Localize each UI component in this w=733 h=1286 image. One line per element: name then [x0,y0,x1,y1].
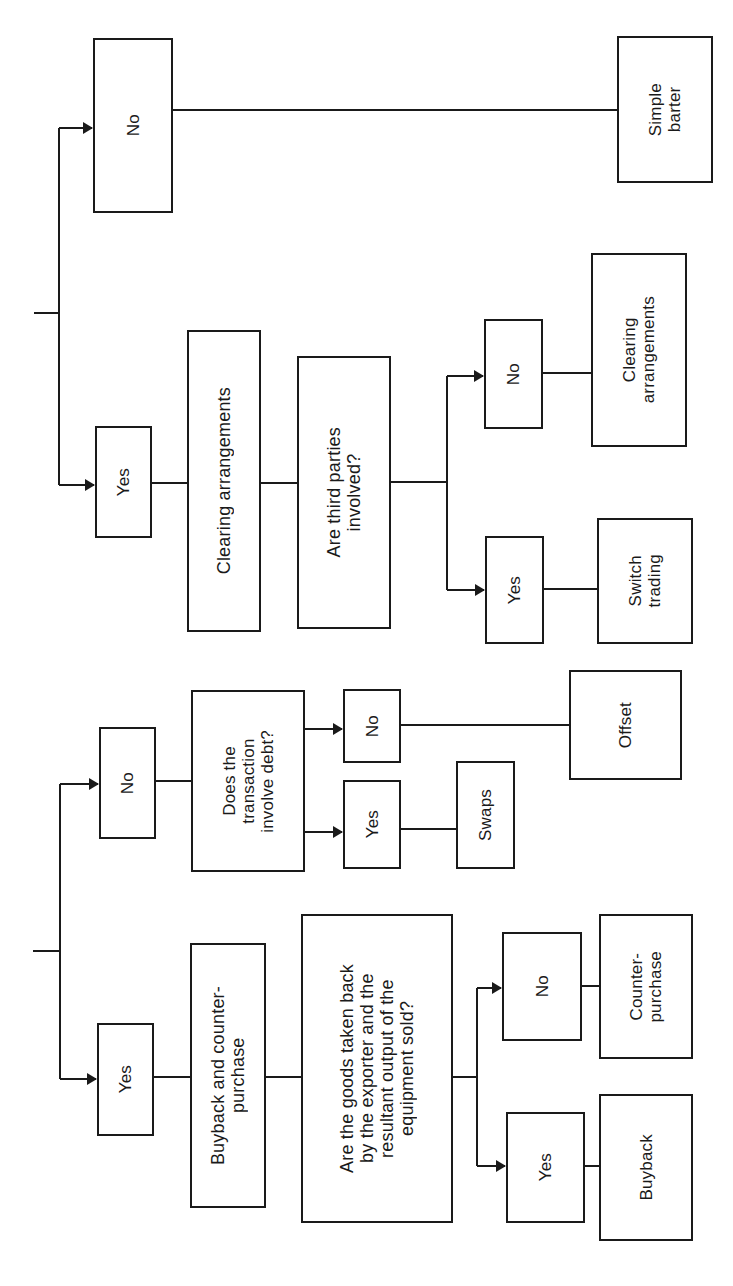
node-label: Yes [536,1153,555,1181]
node-label: Yes [505,576,524,604]
offset-node: Offset [569,670,682,780]
node-label: Buyback [637,1134,656,1201]
node-label: No [118,772,137,794]
countertrade-decision-tree: No Simple barter Yes Clearing arrangemen… [0,0,733,1286]
node-label: No [533,975,552,997]
node-label: No [124,114,143,136]
node-label: Simple barter [646,83,684,136]
node-label: Counter- purchase [627,951,665,1023]
debt-yes-node: Yes [343,780,401,869]
goods-no-node: No [502,932,582,1041]
node-label: Does the transaction involve debt? [220,730,277,833]
third-parties-yes-node: Yes [485,536,544,644]
goods-yes-node: Yes [506,1112,585,1223]
node-label: No [363,715,382,737]
node-label: Yes [363,810,382,838]
node-label: Clearing arrangements [620,296,658,403]
top-yes-node: Yes [95,426,152,538]
swaps-node: Swaps [456,761,515,869]
node-label: Offset [616,702,635,748]
third-parties-no-node: No [484,319,543,429]
goods-taken-back-question-node: Are the goods taken back by the exporter… [301,914,453,1223]
node-label: Switch trading [626,554,664,607]
node-label: Buyback and counter- purchase [208,986,248,1165]
node-label: No [504,363,523,385]
counter-purchase-node: Counter- purchase [599,914,693,1059]
third-parties-question-node: Are third parties involved? [297,356,391,629]
debt-question-node: Does the transaction involve debt? [191,690,305,872]
node-label: Swaps [476,789,495,841]
buyback-counterpurchase-category-node: Buyback and counter- purchase [190,943,266,1208]
node-label: Are third parties involved? [324,427,364,557]
debt-no-node: No [343,689,401,763]
node-label: Yes [114,468,133,496]
top-no-node: No [93,38,173,213]
clearing-arrangements-outcome-node: Clearing arrangements [591,253,687,447]
simple-barter-node: Simple barter [617,36,713,183]
switch-trading-node: Switch trading [597,518,693,644]
node-label: Yes [116,1065,135,1093]
bottom-yes-node: Yes [97,1023,154,1136]
node-label: Are the goods taken back by the exporter… [337,964,417,1173]
bottom-no-node: No [99,727,156,839]
clearing-arrangements-category-node: Clearing arrangements [187,330,261,632]
node-label: Clearing arrangements [214,387,234,574]
buyback-node: Buyback [599,1094,693,1241]
